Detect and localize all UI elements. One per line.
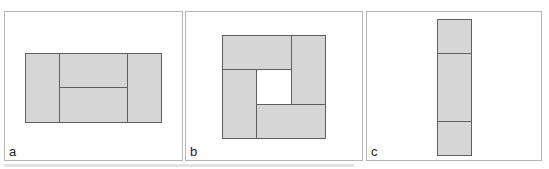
tile-b-right — [291, 35, 326, 105]
panel-label-a: a — [9, 145, 16, 159]
panel-a: a — [4, 11, 183, 161]
tile-a-right — [127, 53, 162, 123]
tile-c-bottom — [437, 121, 472, 156]
tile-c-top — [437, 19, 472, 54]
bottom-divider — [4, 164, 354, 167]
panel-b: b — [185, 11, 363, 161]
tile-a-left — [25, 53, 60, 123]
tile-b-bottom — [256, 104, 326, 139]
tile-a-middle-bottom — [59, 87, 128, 123]
tile-c-middle — [437, 53, 472, 122]
tile-a-middle-top — [59, 53, 128, 88]
panel-c: c — [366, 11, 542, 161]
panel-label-c: c — [371, 145, 378, 159]
tile-b-top — [222, 35, 292, 70]
tile-b-left — [222, 69, 257, 139]
panel-label-b: b — [190, 145, 197, 159]
